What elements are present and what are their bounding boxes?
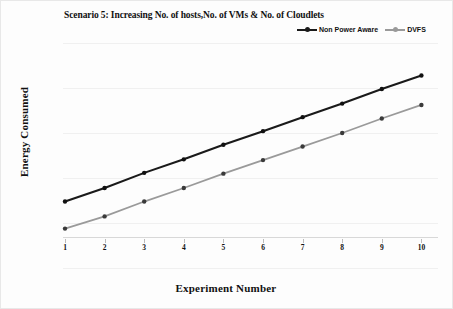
series-line: [65, 105, 421, 229]
plot-area: 1000010001001010.1 12345678910: [63, 37, 438, 277]
data-point-marker: [300, 115, 304, 119]
data-point-marker: [419, 73, 423, 77]
data-point-marker: [380, 116, 384, 120]
legend-item-non-power-aware[interactable]: Non Power Aware: [297, 26, 378, 33]
series-line: [65, 75, 421, 201]
legend-line-marker-icon: [385, 26, 405, 33]
data-point-marker: [261, 158, 265, 162]
legend-line-marker-icon: [297, 26, 317, 33]
chart-title: Scenario 5: Increasing No. of hosts,No. …: [59, 9, 329, 22]
data-point-marker: [142, 171, 146, 175]
data-point-marker: [63, 199, 67, 203]
data-point-marker: [340, 131, 344, 135]
legend-label-dvfs: DVFS: [407, 26, 426, 33]
data-point-marker: [102, 214, 106, 218]
data-point-marker: [221, 171, 225, 175]
chart-legend: Non Power Aware DVFS: [297, 26, 426, 33]
data-point-marker: [182, 186, 186, 190]
data-point-marker: [300, 144, 304, 148]
data-point-marker: [261, 129, 265, 133]
data-point-marker: [419, 103, 423, 107]
data-point-marker: [142, 199, 146, 203]
data-point-marker: [221, 142, 225, 146]
chart-figure: Scenario 5: Increasing No. of hosts,No. …: [0, 0, 453, 309]
data-point-marker: [182, 157, 186, 161]
data-point-marker: [380, 87, 384, 91]
data-point-marker: [63, 226, 67, 230]
series-lines: [63, 37, 438, 277]
data-point-marker: [102, 186, 106, 190]
data-point-marker: [340, 101, 344, 105]
y-axis-label: Energy Consumed: [18, 67, 30, 197]
legend-item-dvfs[interactable]: DVFS: [385, 26, 426, 33]
legend-label-non-power-aware: Non Power Aware: [319, 26, 378, 33]
x-axis-label: Experiment Number: [61, 282, 391, 294]
